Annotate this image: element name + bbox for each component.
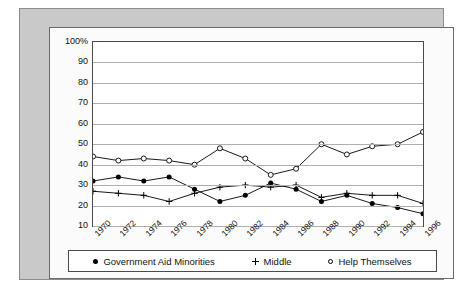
- data-point-marker: [141, 179, 146, 184]
- data-point-marker: [318, 194, 324, 200]
- figure-container: 100%908070605040302010 19701972197419761…: [19, 8, 444, 280]
- legend-label: Government Aid Minorities: [103, 256, 214, 267]
- data-point-marker: [115, 190, 121, 196]
- y-axis-tick-label: 30: [78, 180, 88, 189]
- data-point-marker: [369, 192, 375, 198]
- gridline: [93, 165, 423, 166]
- gridline: [93, 124, 423, 125]
- y-axis-tick-label: 60: [78, 119, 88, 128]
- data-point-marker: [421, 211, 424, 216]
- series-line: [93, 185, 423, 203]
- data-point-marker: [243, 193, 248, 198]
- y-axis-tick-label: 90: [78, 57, 88, 66]
- data-point-marker: [344, 152, 349, 157]
- data-point-marker: [268, 172, 273, 177]
- open-circle-icon: [328, 259, 333, 264]
- data-point-marker: [243, 156, 248, 161]
- y-axis-tick-label: 50: [78, 139, 88, 148]
- chart-card: 100%908070605040302010 19701972197419761…: [49, 27, 454, 279]
- gridline: [93, 103, 423, 104]
- data-point-marker: [294, 166, 299, 171]
- y-axis-tick-label: 100%: [65, 37, 88, 46]
- legend-entry: Government Aid Minorities: [93, 256, 214, 267]
- series-line: [93, 132, 423, 175]
- data-point-marker: [93, 154, 96, 159]
- data-point-marker: [166, 198, 172, 204]
- x-axis-tick-label: 1996: [423, 219, 443, 239]
- gridline: [93, 83, 423, 84]
- data-point-marker: [191, 190, 197, 196]
- data-point-marker: [217, 146, 222, 151]
- data-point-marker: [167, 174, 172, 179]
- filled-circle-icon: [93, 259, 98, 264]
- data-point-marker: [116, 174, 121, 179]
- data-point-marker: [116, 158, 121, 163]
- data-point-marker: [421, 129, 424, 134]
- legend-label: Help Themselves: [338, 256, 411, 267]
- legend-entry: Middle: [252, 256, 292, 267]
- y-axis-tick-label: 20: [78, 201, 88, 210]
- legend-label: Middle: [264, 256, 292, 267]
- y-axis-labels: 100%908070605040302010: [50, 41, 92, 227]
- data-point-marker: [167, 158, 172, 163]
- data-point-marker: [141, 156, 146, 161]
- data-point-marker: [93, 179, 96, 184]
- plot-area: [92, 41, 424, 227]
- y-axis-tick-label: 10: [78, 221, 88, 230]
- data-point-marker: [141, 192, 147, 198]
- chart-legend: Government Aid MinoritiesMiddleHelp Them…: [68, 250, 437, 272]
- gridline: [93, 62, 423, 63]
- gridline: [93, 144, 423, 145]
- gridline: [93, 185, 423, 186]
- data-point-marker: [93, 188, 96, 194]
- y-axis-tick-label: 40: [78, 160, 88, 169]
- data-point-marker: [217, 199, 222, 204]
- plus-icon: [252, 258, 259, 265]
- gridline: [93, 206, 423, 207]
- legend-entry: Help Themselves: [328, 256, 411, 267]
- y-axis-tick-label: 80: [78, 78, 88, 87]
- series-layer: [93, 42, 423, 226]
- data-point-marker: [394, 192, 400, 198]
- y-axis-tick-label: 70: [78, 98, 88, 107]
